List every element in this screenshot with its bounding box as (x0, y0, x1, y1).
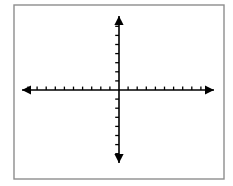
x-axis (22, 85, 214, 94)
y-axis-down-arrowhead (114, 154, 123, 163)
y-axis-up-arrowhead (114, 16, 123, 25)
coordinate-plane-canvas (0, 0, 233, 186)
x-axis-left-arrowhead (22, 85, 31, 94)
x-axis-right-arrowhead (205, 85, 214, 94)
coordinate-plane-figure (0, 0, 233, 186)
